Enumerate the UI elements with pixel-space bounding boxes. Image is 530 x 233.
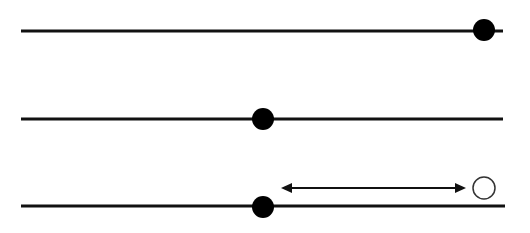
double-arrow (281, 183, 466, 193)
arrow-head-left-icon (281, 183, 292, 193)
open-circle-group (473, 177, 495, 199)
filled-dot-1 (473, 19, 495, 41)
filled-dot-2 (252, 108, 274, 130)
filled-dot-3 (252, 196, 274, 218)
arrow-head-right-icon (455, 183, 466, 193)
open-circle (473, 177, 495, 199)
diagram-canvas (0, 0, 530, 233)
